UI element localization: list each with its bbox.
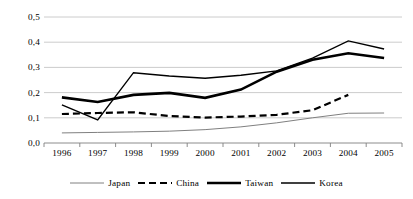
x-tick-label: 1999 bbox=[160, 147, 179, 159]
legend-entry-japan[interactable]: Japan bbox=[70, 178, 130, 188]
legend-label: Taiwan bbox=[245, 178, 273, 188]
legend-entry-taiwan[interactable]: Taiwan bbox=[207, 178, 273, 188]
x-tick-label: 2000 bbox=[196, 147, 215, 159]
y-axis: 0,00,10,20,30,40,5 bbox=[0, 0, 40, 199]
y-tick-label: 0,0 bbox=[2, 138, 40, 148]
y-tick-label: 0,2 bbox=[2, 88, 40, 98]
legend-entry-china[interactable]: China bbox=[138, 178, 199, 188]
x-tick-label: 2003 bbox=[303, 147, 322, 159]
series-line-korea bbox=[62, 41, 384, 120]
legend-swatch-taiwan bbox=[207, 178, 241, 188]
series-lines bbox=[62, 41, 384, 133]
y-tick-label: 0,5 bbox=[2, 12, 40, 22]
series-line-japan bbox=[62, 113, 384, 133]
x-tick-label: 2002 bbox=[267, 147, 286, 159]
x-tick-label: 2001 bbox=[231, 147, 250, 159]
series-line-taiwan bbox=[62, 53, 384, 102]
plot-svg bbox=[44, 17, 402, 143]
y-tick-label: 0,4 bbox=[2, 37, 40, 47]
legend-swatch-china bbox=[138, 178, 172, 188]
legend-label: Japan bbox=[108, 178, 130, 188]
x-axis: 1996199719981999200020012002200320042005 bbox=[44, 147, 402, 163]
legend-label: China bbox=[176, 178, 199, 188]
x-tick-label: 1997 bbox=[88, 147, 107, 159]
y-tick-label: 0,1 bbox=[2, 113, 40, 123]
x-tick-label: 1996 bbox=[52, 147, 71, 159]
plot-area bbox=[44, 17, 402, 143]
x-tick-label: 1998 bbox=[124, 147, 143, 159]
y-tick-label: 0,3 bbox=[2, 62, 40, 72]
legend-swatch-korea bbox=[281, 178, 315, 188]
legend-swatch-japan bbox=[70, 178, 104, 188]
legend-label: Korea bbox=[319, 178, 342, 188]
x-tick-label: 2004 bbox=[339, 147, 358, 159]
x-tick-label: 2005 bbox=[375, 147, 394, 159]
legend-entry-korea[interactable]: Korea bbox=[281, 178, 342, 188]
chart-legend: JapanChinaTaiwanKorea bbox=[0, 173, 413, 193]
line-chart: 0,00,10,20,30,40,5 199619971998199920002… bbox=[0, 0, 413, 199]
